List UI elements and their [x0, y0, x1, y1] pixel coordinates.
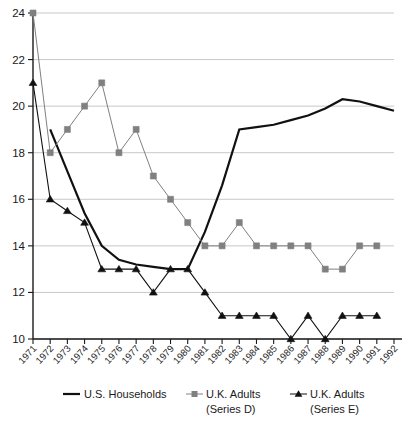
data-point-3-1971 [29, 79, 37, 85]
x-tick-label-1971: 1971 [16, 343, 38, 366]
legend-label-2: U.K. Adults [206, 388, 261, 400]
data-point-2-1971 [30, 10, 36, 16]
x-tick-label-1983: 1983 [222, 343, 244, 366]
data-point-2-1974 [82, 103, 88, 109]
legend-marker-square-icon [192, 391, 198, 397]
legend-item-2[interactable]: U.K. Adults(Series D) [186, 388, 261, 415]
x-tick-label-1977: 1977 [119, 343, 141, 366]
x-tick-label-1984: 1984 [239, 343, 261, 366]
data-point-3-1972 [46, 196, 54, 202]
x-tick-label-1985: 1985 [257, 343, 279, 366]
y-tick-label-24: 24 [12, 7, 25, 19]
data-point-2-1977 [133, 126, 139, 132]
data-point-2-1990 [357, 243, 363, 249]
data-point-2-1991 [374, 243, 380, 249]
data-point-2-1985 [271, 243, 277, 249]
data-point-3-1978 [149, 289, 157, 295]
legend-item-3[interactable]: U.K. Adults(Series E) [290, 388, 365, 415]
data-point-2-1980 [185, 220, 191, 226]
data-point-2-1984 [253, 243, 259, 249]
x-tick-label-1986: 1986 [274, 343, 296, 366]
x-tick-label-1978: 1978 [136, 343, 158, 366]
x-tick-label-1991: 1991 [360, 343, 382, 366]
x-tick-label-1988: 1988 [308, 343, 330, 366]
y-tick-label-16: 16 [12, 193, 25, 205]
data-point-2-1986 [288, 243, 294, 249]
x-tick-label-1990: 1990 [343, 343, 365, 366]
data-point-3-1973 [63, 207, 71, 213]
data-point-2-1973 [64, 126, 70, 132]
series-3 [29, 79, 381, 342]
legend-sublabel-3: (Series E) [310, 403, 359, 415]
x-tick-label-1975: 1975 [85, 343, 107, 366]
data-point-2-1979 [168, 196, 174, 202]
x-tick-label-1987: 1987 [291, 343, 313, 366]
legend-label-3: U.K. Adults [310, 388, 365, 400]
data-point-2-1972 [47, 150, 53, 156]
x-tick-label-1980: 1980 [171, 343, 193, 366]
y-tick-label-10: 10 [12, 333, 25, 345]
legend-label-1: U.S. Households [84, 388, 167, 400]
x-tick-label-1976: 1976 [102, 343, 124, 366]
y-tick-label-12: 12 [12, 286, 25, 298]
y-tick-label-20: 20 [12, 100, 25, 112]
x-tick-label-1972: 1972 [33, 343, 55, 366]
x-tick-label-1989: 1989 [325, 343, 347, 366]
legend-sublabel-2: (Series D) [206, 403, 256, 415]
data-point-2-1975 [99, 80, 105, 86]
legend-marker-triangle-icon [295, 390, 303, 396]
y-tick-label-18: 18 [12, 147, 25, 159]
x-tick-label-1992: 1992 [377, 343, 399, 366]
legend-item-1[interactable]: U.S. Households [63, 388, 167, 400]
data-point-2-1989 [339, 266, 345, 272]
line-chart: 1012141618202224197119721973197419751976… [0, 0, 416, 429]
data-point-2-1982 [219, 243, 225, 249]
chart-container: 1012141618202224197119721973197419751976… [0, 0, 416, 429]
x-tick-label-1974: 1974 [68, 343, 90, 366]
y-tick-label-14: 14 [12, 240, 25, 252]
data-point-2-1988 [322, 266, 328, 272]
data-point-2-1983 [236, 220, 242, 226]
data-point-3-1987 [304, 312, 312, 318]
x-tick-label-1981: 1981 [188, 343, 210, 366]
data-point-2-1976 [116, 150, 122, 156]
data-point-2-1987 [305, 243, 311, 249]
data-point-3-1981 [201, 289, 209, 295]
x-tick-label-1973: 1973 [50, 343, 72, 366]
y-tick-label-22: 22 [12, 54, 25, 66]
x-tick-label-1979: 1979 [154, 343, 176, 366]
data-point-2-1981 [202, 243, 208, 249]
data-point-2-1978 [150, 173, 156, 179]
x-tick-label-1982: 1982 [205, 343, 227, 366]
